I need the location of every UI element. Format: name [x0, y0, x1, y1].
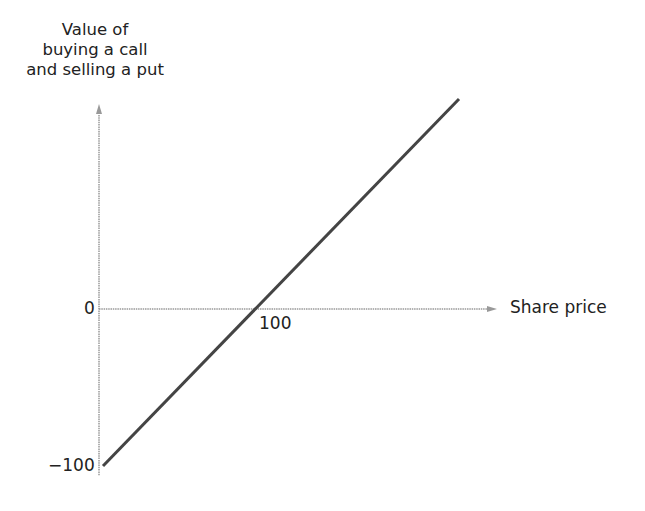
chart-plot	[0, 0, 645, 511]
x-axis-label: Share price	[510, 297, 607, 317]
y-tick-0: 0	[84, 298, 95, 318]
payoff-line	[103, 99, 459, 466]
x-tick-100: 100	[259, 313, 291, 333]
y-axis-arrow-icon	[96, 104, 102, 114]
y-tick-minus-100: −100	[48, 455, 95, 475]
x-axis-arrow-icon	[487, 306, 497, 312]
